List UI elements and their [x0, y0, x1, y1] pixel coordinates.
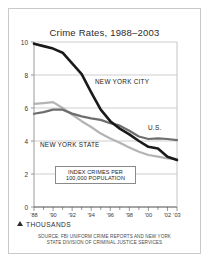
- y-tick-label: 2: [14, 171, 28, 178]
- source-note: SOURCE: FBI UNIFORM CRIME REPORTS AND NE…: [8, 234, 201, 246]
- series-label-us: U.S.: [148, 124, 161, 131]
- x-tick-label: '98: [119, 212, 139, 219]
- grid-lines: [34, 42, 177, 174]
- x-tick-label: '90: [43, 212, 63, 219]
- y-tick-label: 6: [14, 105, 28, 112]
- index-crimes-note: INDEX CRIMES PER 100,000 POPULATION: [55, 166, 136, 184]
- thousands-axis-note: THOUSANDS: [17, 221, 71, 228]
- y-tick-label: 8: [14, 72, 28, 79]
- index-crimes-note-line2: 100,000 POPULATION: [56, 175, 135, 181]
- x-tick-label: '00: [138, 212, 158, 219]
- x-tick-label: '96: [100, 212, 120, 219]
- source-line-2: STATE DIVISION OF CRIMINAL JUSTICE SERVI…: [8, 240, 201, 246]
- thousands-label: THOUSANDS: [26, 221, 71, 228]
- x-tick-label: '92: [62, 212, 82, 219]
- chart-figure: Crime Rates, 1988–2003 0246810 '88'90'92…: [0, 0, 210, 263]
- triangle-icon: [17, 221, 23, 226]
- x-tick-label: '03: [167, 212, 187, 219]
- y-tick-label: 4: [14, 138, 28, 145]
- series-label-new-york-state: NEW YORK STATE: [40, 141, 100, 148]
- x-tick-label: '94: [81, 212, 101, 219]
- y-tick-label: 10: [14, 39, 28, 46]
- x-tick-label: '88: [24, 212, 44, 219]
- y-tick-label: 0: [14, 204, 28, 211]
- series-label-new-york-city: NEW YORK CITY: [95, 78, 149, 85]
